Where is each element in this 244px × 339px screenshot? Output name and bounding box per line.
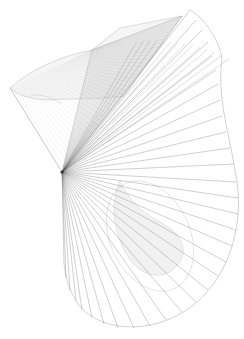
fan-line <box>62 172 92 318</box>
fan-line <box>62 172 238 198</box>
fan-line <box>62 172 104 324</box>
fan-line <box>62 172 82 310</box>
line-art-figure <box>0 0 244 339</box>
ribbon-front-edge <box>10 88 62 172</box>
fan-line <box>62 164 234 172</box>
focal-point <box>60 170 63 173</box>
ribbon-shape <box>10 16 183 275</box>
figure-svg <box>0 0 244 339</box>
